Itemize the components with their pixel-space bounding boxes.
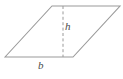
figure-canvas — [0, 0, 123, 79]
base-label: b — [38, 60, 44, 71]
height-label: h — [65, 21, 71, 32]
parallelogram-figure: h b — [0, 0, 123, 79]
